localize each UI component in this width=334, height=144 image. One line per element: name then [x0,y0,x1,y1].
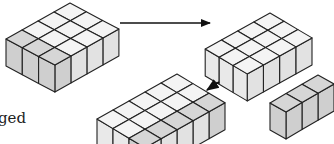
isometric-block-diagram [0,0,334,144]
caption-line: ged [0,111,40,127]
block-initial [6,3,119,92]
block-rearranged [97,74,225,144]
arrow-insert-icon [207,82,219,90]
caption-text: ged king d nodel [0,80,40,144]
block-removed-row [270,75,334,139]
